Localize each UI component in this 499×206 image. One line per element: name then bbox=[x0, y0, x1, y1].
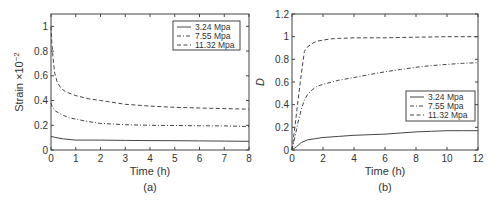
x-tick-label: 2 bbox=[320, 153, 326, 164]
y-axis-label-b: D bbox=[254, 78, 266, 86]
y-tick-label: 0.4 bbox=[275, 99, 289, 110]
x-tick-label: 6 bbox=[197, 153, 203, 164]
plot-area-b bbox=[292, 14, 478, 150]
y-tick-label: 1 bbox=[283, 31, 289, 42]
y-tick-label: 0.6 bbox=[34, 70, 48, 81]
chart-panel-b: 02468101200.20.40.60.811.2 3.24 Mpa7.55 … bbox=[254, 9, 484, 194]
x-tick-label: 0 bbox=[289, 153, 295, 164]
y-axis-label-a: Strain ×10−2 bbox=[12, 52, 25, 112]
y-tick-label: 0 bbox=[283, 145, 289, 156]
figure: 01234567800.20.40.60.81 3.24 Mpa7.55 Mpa… bbox=[0, 0, 499, 206]
y-tick-label: 0 bbox=[42, 145, 48, 156]
legend-a: 3.24 Mpa7.55 Mpa11.32 Mpa bbox=[173, 21, 240, 50]
x-tick-label: 4 bbox=[351, 153, 357, 164]
chart-panel-a: 01234567800.20.40.60.81 3.24 Mpa7.55 Mpa… bbox=[12, 14, 252, 193]
x-axis-label-b: Time (h) bbox=[365, 165, 406, 177]
panel-label-a: (a) bbox=[143, 181, 156, 193]
x-tick-label: 8 bbox=[246, 153, 252, 164]
legend-b: 3.24 Mpa7.55 Mpa11.32 Mpa bbox=[406, 91, 475, 121]
y-tick-label: 0.4 bbox=[34, 95, 48, 106]
x-tick-label: 2 bbox=[98, 153, 104, 164]
x-tick-label: 7 bbox=[221, 153, 227, 164]
y-tick-label: 1.2 bbox=[275, 9, 289, 20]
x-tick-label: 6 bbox=[382, 153, 388, 164]
x-tick-label: 1 bbox=[73, 153, 79, 164]
y-tick-label: 0.8 bbox=[34, 46, 48, 57]
legend-entry: 11.32 Mpa bbox=[195, 40, 235, 50]
x-tick-label: 8 bbox=[413, 153, 419, 164]
series-line bbox=[51, 103, 249, 127]
y-tick-label: 0.8 bbox=[275, 54, 289, 65]
x-axis-label-a: Time (h) bbox=[130, 165, 171, 177]
y-tick-label: 0.2 bbox=[275, 122, 289, 133]
x-tick-label: 5 bbox=[172, 153, 178, 164]
x-tick-label: 0 bbox=[48, 153, 54, 164]
series-line bbox=[51, 136, 249, 141]
y-tick-label: 0.6 bbox=[275, 77, 289, 88]
x-tick-label: 12 bbox=[472, 153, 484, 164]
y-tick-label: 1 bbox=[42, 21, 48, 32]
x-tick-label: 3 bbox=[122, 153, 128, 164]
x-tick-label: 10 bbox=[441, 153, 453, 164]
panel-label-b: (b) bbox=[378, 181, 391, 193]
x-tick-label: 4 bbox=[147, 153, 153, 164]
legend-entry: 11.32 Mpa bbox=[428, 110, 468, 120]
y-tick-label: 0.2 bbox=[34, 120, 48, 131]
